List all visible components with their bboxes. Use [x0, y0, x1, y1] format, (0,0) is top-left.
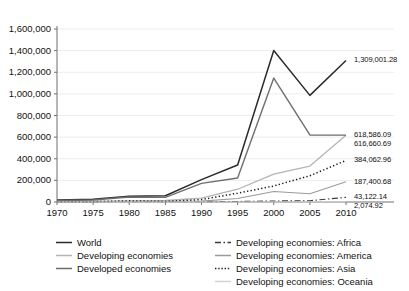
x-tick-label: 1990: [182, 208, 222, 218]
y-tick-label: 1,400,000: [9, 46, 51, 56]
legend-item[interactable]: Developing economies: Africa: [215, 236, 373, 249]
legend-item[interactable]: Developing economies: America: [215, 249, 373, 262]
legend-line-swatch-icon: [56, 250, 72, 261]
axis-lines: [57, 26, 394, 202]
data-point-label: 2,074.92: [354, 202, 383, 210]
legend-line-swatch-icon: [215, 250, 231, 261]
legend-column-left: WorldDeveloping economiesDeveloped econo…: [56, 236, 173, 275]
data-point-label: 43,122.14: [354, 193, 387, 201]
x-tick-label: 1995: [218, 208, 258, 218]
y-tick-label: 0: [46, 197, 51, 207]
axis-ticks: [54, 29, 346, 205]
legend-column-right: Developing economies: AfricaDeveloping e…: [215, 236, 373, 288]
y-tick-label: 1,600,000: [9, 24, 51, 34]
x-tick-label: 1975: [73, 208, 113, 218]
legend-item-label: Developing economies: Oceania: [236, 277, 373, 287]
legend-line-swatch-icon: [56, 263, 72, 274]
y-tick-label: 200,000: [17, 175, 51, 185]
x-tick-label: 1970: [37, 208, 77, 218]
series-lines: [57, 51, 346, 202]
legend-item-label: Developing economies: Africa: [236, 238, 361, 248]
legend-item-label: Developing economies: Asia: [236, 264, 355, 274]
legend-item[interactable]: World: [56, 236, 173, 249]
data-point-label: 618,586.09: [354, 131, 391, 139]
legend-line-swatch-icon: [215, 263, 231, 274]
x-tick-label: 1985: [145, 208, 185, 218]
gridlines: [57, 29, 394, 180]
chart-legend: WorldDeveloping economiesDeveloped econo…: [40, 236, 400, 288]
data-point-label: 187,400.68: [354, 178, 391, 186]
legend-item[interactable]: Developed economies: [56, 262, 173, 275]
legend-item[interactable]: Developing economies: [56, 249, 173, 262]
data-point-label: 616,660.69: [354, 140, 391, 148]
data-point-label: 1,309,001.28: [354, 56, 397, 64]
y-tick-label: 600,000: [17, 132, 51, 142]
legend-item-label: Developing economies: [77, 251, 173, 261]
x-tick-label: 1980: [109, 208, 149, 218]
data-point-label: 384,062.96: [354, 156, 391, 164]
y-tick-label: 1,000,000: [9, 89, 51, 99]
legend-item-label: World: [77, 238, 102, 248]
legend-item-label: Developed economies: [77, 264, 171, 274]
legend-item[interactable]: Developing economies: Oceania: [215, 275, 373, 288]
legend-line-swatch-icon: [215, 237, 231, 248]
x-tick-label: 2000: [254, 208, 294, 218]
y-tick-label: 400,000: [17, 154, 51, 164]
y-tick-label: 800,000: [17, 111, 51, 121]
legend-item[interactable]: Developing economies: Asia: [215, 262, 373, 275]
legend-line-swatch-icon: [215, 276, 231, 287]
line-chart: 0200,000400,000600,000800,0001,000,0001,…: [0, 0, 409, 291]
legend-line-swatch-icon: [56, 237, 72, 248]
x-tick-label: 2005: [290, 208, 330, 218]
legend-item-label: Developing economies: America: [236, 251, 372, 261]
y-tick-label: 1,200,000: [9, 67, 51, 77]
